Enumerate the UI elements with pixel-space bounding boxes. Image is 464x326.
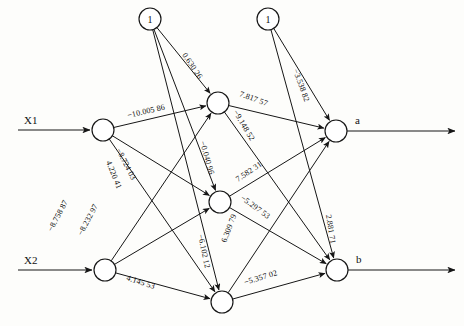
input-label-x2: X2 bbox=[24, 254, 37, 266]
edge-h2-to-out_a bbox=[229, 138, 325, 197]
edge-h2-to-out_b bbox=[230, 208, 327, 264]
weight-label-w_h2_a: 7.582 31 bbox=[234, 160, 264, 184]
edge-bias_output-to-out_b bbox=[271, 30, 334, 258]
weight-labels: −10.005 86−8.724 034.220 41−8.758 87−8.2… bbox=[46, 51, 338, 291]
input-output-arrows bbox=[18, 130, 455, 270]
output-label-out_b: b bbox=[356, 253, 362, 265]
weight-label-w_x2_h1: −8.758 87 bbox=[46, 198, 70, 232]
network-svg: ​ 11 −10.005 86−8.724 034.220 41−8.758 8… bbox=[0, 0, 464, 326]
weight-label-w_h3_a: 6.309 79 bbox=[219, 213, 238, 244]
weight-label-w_b_h1: 0.630 26 bbox=[180, 51, 204, 81]
weight-label-w_x1_h3: 4.220 41 bbox=[104, 159, 123, 190]
hidden-node-h3 bbox=[211, 291, 233, 313]
weight-label-w_b_h3: −6.102 12 bbox=[196, 234, 212, 269]
edge-h3-to-out_a bbox=[228, 141, 329, 292]
bias-node-value-bias_output: 1 bbox=[266, 14, 271, 25]
weight-label-w_x1_h1: −10.005 86 bbox=[126, 103, 165, 120]
input-label-x1: X1 bbox=[24, 114, 37, 126]
input-node-x1 bbox=[92, 119, 114, 141]
weight-label-w_h1_b: −9.148 52 bbox=[231, 108, 256, 142]
neural-network-figure: ​ 11 −10.005 86−8.724 034.220 41−8.758 8… bbox=[0, 0, 464, 326]
weight-label-w_h2_b: −5.297 53 bbox=[239, 193, 272, 220]
weight-label-w_h3_b: −5.357 02 bbox=[243, 268, 278, 287]
hidden-node-h2 bbox=[209, 191, 231, 213]
weight-label-w_h1_a: 7.817 57 bbox=[238, 89, 269, 108]
output-node-out_a bbox=[325, 120, 347, 142]
input-node-x2 bbox=[94, 259, 116, 281]
edge-x2-to-h2 bbox=[114, 208, 209, 264]
hidden-node-h1 bbox=[207, 92, 229, 114]
output-node-out_b bbox=[326, 259, 348, 281]
bias-node-value-bias_hidden: 1 bbox=[148, 14, 153, 25]
weight-label-w_x2_h3: 4.145 53 bbox=[125, 273, 156, 291]
network-nodes: 11 bbox=[92, 8, 348, 313]
output-label-out_a: a bbox=[355, 114, 360, 126]
weight-label-w_x2_h2: −8.232 97 bbox=[76, 202, 100, 236]
weight-label-w_b_h2: −0.040 96 bbox=[198, 140, 216, 175]
